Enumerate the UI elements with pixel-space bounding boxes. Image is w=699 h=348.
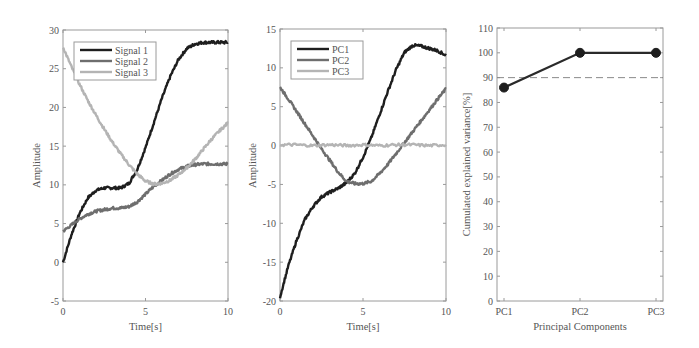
x-tick-label: 5 — [361, 306, 366, 317]
y-tick-label: 15 — [266, 24, 276, 35]
x-tick-label: PC3 — [647, 306, 664, 317]
x-tick-label: 0 — [61, 306, 66, 317]
y-tick-label: -5 — [51, 296, 59, 307]
y-tick-label: 40 — [483, 196, 493, 207]
series-line-pc1 — [280, 44, 446, 298]
y-tick-label: 0 — [271, 140, 276, 151]
y-tick-label: -10 — [263, 218, 276, 229]
y-tick-label: 20 — [483, 246, 493, 257]
y-tick-label: 5 — [271, 101, 276, 112]
x-tick-label: 0 — [278, 306, 283, 317]
y-tick-label: 30 — [483, 221, 493, 232]
y-tick-label: 30 — [49, 25, 59, 36]
data-point-marker — [576, 48, 585, 57]
y-tick-label: 15 — [49, 141, 59, 152]
y-tick-label: 110 — [478, 23, 493, 34]
x-tick-label: 5 — [143, 306, 148, 317]
signals-chart: -50510152025300510Signal 1Signal 2Signal… — [31, 25, 233, 333]
series-line-pc3 — [280, 143, 446, 146]
signals-y-axis-label: Amplitude — [31, 143, 42, 188]
y-tick-label: -5 — [268, 179, 276, 190]
legend-label: PC3 — [332, 66, 349, 77]
y-tick-label: 5 — [54, 218, 59, 229]
legend-label: Signal 2 — [115, 56, 148, 67]
x-tick-label: 10 — [223, 306, 233, 317]
variance-y-axis-label: Cumulated explained variance[%] — [461, 93, 472, 236]
signals-x-axis-label: Time[s] — [129, 321, 162, 332]
legend-label: Signal 1 — [115, 45, 148, 56]
y-tick-label: 10 — [483, 271, 493, 282]
y-tick-label: 50 — [483, 171, 493, 182]
x-tick-label: 10 — [441, 306, 451, 317]
data-point-marker — [500, 83, 509, 92]
legend: Signal 1Signal 2Signal 3 — [74, 42, 156, 80]
y-tick-label: -15 — [263, 257, 276, 268]
y-tick-label: 10 — [266, 62, 276, 73]
data-point-marker — [652, 48, 661, 57]
signals-plot-area: -50510152025300510Signal 1Signal 2Signal… — [49, 25, 233, 318]
pc-x-axis-label: Time[s] — [347, 321, 380, 332]
legend-label: PC1 — [332, 44, 349, 55]
y-tick-label: 70 — [483, 122, 493, 133]
y-tick-label: 10 — [49, 179, 59, 190]
principal-components-chart: -20-15-10-50510150510PC1PC2PC3 Time[s] A… — [247, 24, 451, 333]
legend-label: PC2 — [332, 55, 349, 66]
y-tick-label: 25 — [49, 63, 59, 74]
pca-figure: -50510152025300510Signal 1Signal 2Signal… — [0, 0, 699, 348]
pc-y-axis-label: Amplitude — [247, 143, 258, 188]
variance-plot-area: 0102030405060708090100110PC1PC2PC3 — [478, 23, 665, 318]
variance-x-axis-label: Principal Components — [533, 321, 627, 332]
explained-variance-chart: 0102030405060708090100110PC1PC2PC3 Princ… — [461, 23, 665, 333]
variance-line — [504, 53, 656, 88]
series-line-pc2 — [280, 87, 446, 185]
y-tick-label: 0 — [54, 257, 59, 268]
legend-label: Signal 3 — [115, 67, 148, 78]
y-tick-label: 100 — [478, 47, 493, 58]
axes-frame — [497, 28, 663, 301]
y-tick-label: 90 — [483, 72, 493, 83]
x-tick-label: PC2 — [571, 306, 588, 317]
x-tick-label: PC1 — [495, 306, 512, 317]
y-tick-label: 60 — [483, 147, 493, 158]
pc-plot-area: -20-15-10-50510150510PC1PC2PC3 — [263, 24, 451, 318]
y-tick-label: 80 — [483, 97, 493, 108]
y-tick-label: -20 — [263, 296, 276, 307]
y-tick-label: 20 — [49, 102, 59, 113]
legend: PC1PC2PC3 — [291, 41, 363, 79]
y-tick-label: 0 — [488, 296, 493, 307]
